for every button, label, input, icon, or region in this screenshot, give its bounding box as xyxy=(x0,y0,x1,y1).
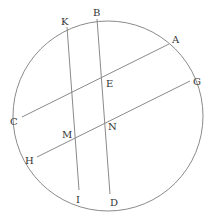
chord-gh xyxy=(37,81,190,157)
geometry-diagram: K B A E G C M N H I D xyxy=(0,0,207,218)
label-i: I xyxy=(76,194,80,205)
label-h: H xyxy=(25,155,34,166)
chord-bd xyxy=(97,19,110,194)
label-d: D xyxy=(110,197,118,208)
label-c: C xyxy=(10,116,18,127)
label-k: K xyxy=(61,16,69,27)
label-b: B xyxy=(93,7,100,18)
label-m: M xyxy=(62,129,72,140)
label-a: A xyxy=(171,34,180,45)
chord-ac xyxy=(22,44,169,117)
circle xyxy=(13,21,203,211)
chord-ki xyxy=(67,27,79,190)
label-n: N xyxy=(108,121,117,132)
label-e: E xyxy=(106,78,113,89)
label-g: G xyxy=(193,76,201,87)
